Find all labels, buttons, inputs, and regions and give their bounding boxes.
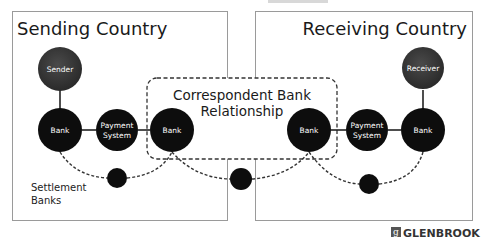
bank-node-sending-domestic: Bank xyxy=(38,108,82,152)
settlement-label-line1: Settlement xyxy=(31,182,87,193)
settlement-label-line2: Banks xyxy=(31,195,61,206)
glenbrook-logo: g GLENBROOK xyxy=(391,227,480,240)
sender-label: Sender xyxy=(47,65,75,74)
sending-country-title: Sending Country xyxy=(17,18,168,39)
correspondent-title-line1: Correspondent Bank xyxy=(173,87,311,103)
correspondent-title-line2: Relationship xyxy=(201,103,284,119)
payment-system-label-line2: System xyxy=(353,131,381,140)
settlement-bank-node-receiving xyxy=(359,174,379,194)
bank-node-sending-correspondent: Bank xyxy=(150,108,194,152)
settlement-bank-node-sending xyxy=(107,168,127,188)
bank-label: Bank xyxy=(414,126,433,135)
receiver-node: Receiver xyxy=(402,47,444,89)
payment-system-label-line1: Payment xyxy=(351,121,384,130)
glenbrook-wordmark: GLENBROOK xyxy=(403,227,480,240)
bank-node-receiving-domestic: Bank xyxy=(401,108,445,152)
payment-flow-diagram: Sending Country Receiving Country Corres… xyxy=(0,0,483,239)
receiving-country-title: Receiving Country xyxy=(303,18,468,39)
bank-label: Bank xyxy=(51,126,70,135)
sender-node: Sender xyxy=(38,47,82,91)
payment-system-node-receiving: Payment System xyxy=(346,109,388,151)
payment-system-label-line1: Payment xyxy=(101,121,134,130)
bank-node-receiving-correspondent: Bank xyxy=(287,108,331,152)
bank-label: Bank xyxy=(300,126,319,135)
payment-system-label-line2: System xyxy=(103,131,131,140)
glenbrook-mark-letter: g xyxy=(393,227,399,237)
bank-label: Bank xyxy=(163,126,182,135)
cutoff-title-fragment xyxy=(268,0,328,3)
settlement-bank-node-correspondent xyxy=(230,168,252,190)
receiver-label: Receiver xyxy=(407,64,440,73)
payment-system-node-sending: Payment System xyxy=(96,109,138,151)
